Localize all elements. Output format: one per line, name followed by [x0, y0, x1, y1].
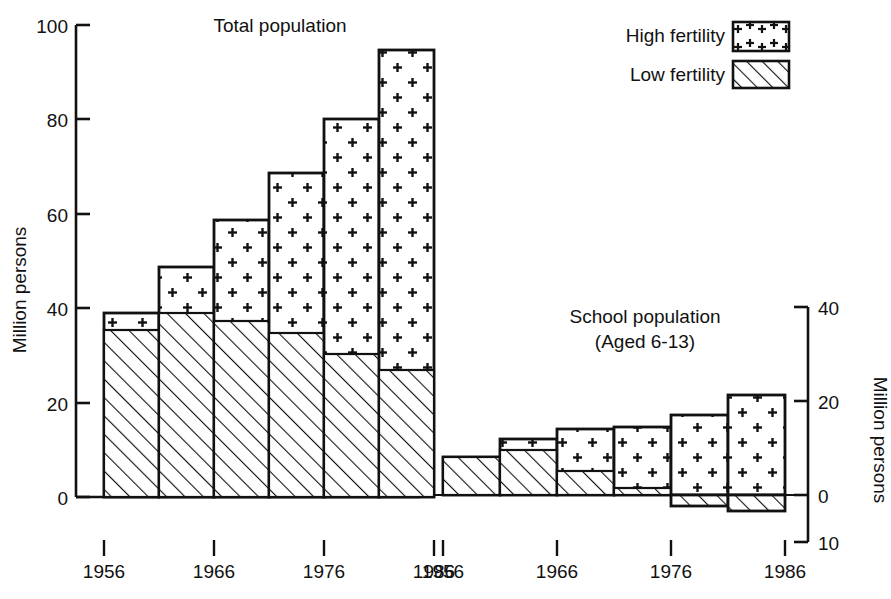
- right-ytick-0: 0: [818, 486, 829, 507]
- legend-swatch-low-fertility: [733, 61, 789, 88]
- left-bars: [104, 50, 434, 497]
- legend-swatch-high-fertility: [733, 22, 789, 51]
- right-xtick-1976: 1976: [650, 561, 692, 582]
- left-bar-low-6: [379, 370, 434, 497]
- legend-label-low-fertility: Low fertility: [630, 64, 726, 85]
- right-bar-low-2: [500, 450, 557, 495]
- right-bars: [443, 395, 785, 511]
- legend: High fertility Low fertility: [626, 22, 789, 88]
- left-bar-low-4: [269, 333, 324, 497]
- right-bar-high-4: [614, 427, 671, 495]
- right-bar-low-6: [728, 495, 785, 511]
- right-bar-high-6: [728, 395, 785, 495]
- right-axis-label: Million persons: [870, 377, 891, 504]
- right-bar-low-1: [443, 457, 500, 495]
- right-xtick-1966: 1966: [536, 561, 578, 582]
- right-panel: School population (Aged 6-13) Million pe…: [422, 298, 891, 582]
- left-ytick-20: 20: [47, 394, 68, 415]
- right-bar-group-4: [614, 427, 671, 495]
- left-bar-group-1: [104, 313, 159, 497]
- left-xtick-1976: 1976: [303, 561, 345, 582]
- right-ytick-40: 40: [818, 298, 839, 319]
- right-xtick-1956: 1956: [422, 561, 464, 582]
- right-bar-low-3: [557, 471, 614, 495]
- left-bar-low-3: [214, 321, 269, 497]
- right-bar-group-3: [557, 429, 614, 495]
- left-axis-label: Million persons: [9, 227, 30, 354]
- left-bar-low-1: [104, 330, 159, 497]
- left-bar-low-2: [159, 313, 214, 497]
- left-ytick-80: 80: [47, 110, 68, 131]
- left-ytick-60: 60: [47, 205, 68, 226]
- right-x-ticks: [443, 540, 785, 556]
- right-xtick-1986: 1986: [764, 561, 806, 582]
- right-bar-low-4: [614, 488, 671, 495]
- left-bar-group-3: [214, 220, 269, 497]
- right-panel-title-line2: (Aged 6-13): [595, 331, 695, 352]
- left-xtick-1956: 1956: [83, 561, 125, 582]
- right-panel-title-line1: School population: [569, 306, 720, 327]
- left-bar-low-5: [324, 354, 379, 497]
- left-panel-title: Total population: [213, 15, 346, 36]
- left-ytick-40: 40: [47, 299, 68, 320]
- left-xtick-1966: 1966: [193, 561, 235, 582]
- left-bar-group-6: [379, 50, 434, 497]
- left-bar-group-2: [159, 267, 214, 497]
- left-x-ticks: [104, 540, 434, 556]
- right-bar-low-5: [671, 495, 728, 506]
- right-ytick-20: 20: [818, 392, 839, 413]
- right-ytick-neg10: 10: [818, 533, 839, 554]
- right-bar-group-5: [671, 415, 728, 506]
- right-bar-group-1: [443, 457, 500, 495]
- legend-label-high-fertility: High fertility: [626, 25, 726, 46]
- figure-root: High fertility Low fertility Total popul…: [0, 0, 891, 599]
- right-bar-high-5: [671, 415, 728, 495]
- left-y-ticks: [76, 25, 90, 497]
- left-bar-group-5: [324, 119, 379, 497]
- left-panel: Total population Million persons 100 80 …: [9, 15, 455, 582]
- right-y-ticks: [794, 307, 808, 542]
- right-bar-group-2: [500, 439, 557, 495]
- chart-figure: High fertility Low fertility Total popul…: [0, 0, 891, 599]
- left-ytick-0: 0: [57, 488, 68, 509]
- left-bar-group-4: [269, 173, 324, 497]
- right-bar-group-6: [728, 395, 785, 511]
- left-ytick-100: 100: [36, 16, 68, 37]
